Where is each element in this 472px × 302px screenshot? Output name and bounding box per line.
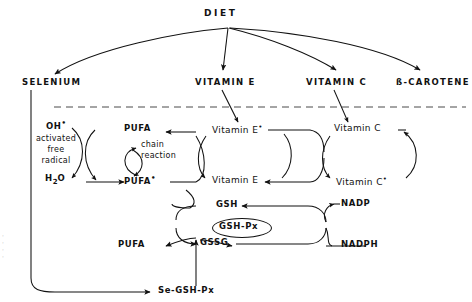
node-pufa-product: PUFA <box>118 240 145 249</box>
node-vitamin-e-radical: Vitamin E• <box>212 124 262 135</box>
node-vitamin-e-reduced: Vitamin E <box>212 176 258 185</box>
curve-vitamin-e-red-to-ox <box>282 134 291 178</box>
curve-pufa-radical-down-to-gsh-loop <box>186 190 194 208</box>
diagram-canvas: PUFA• horizontal --> toward Vitamin C cy… <box>0 0 472 302</box>
node-pufa: PUFA <box>124 124 151 133</box>
curve-c-cycle-entry-top <box>310 130 324 152</box>
diagram-title: DIET <box>204 9 238 18</box>
curve-c-cycle-exit-bottom <box>310 158 324 182</box>
node-nadph: NADPH <box>341 240 378 249</box>
node-b-carotene: ß-CAROTENE <box>396 78 470 87</box>
line-vitamin-e-descender <box>222 90 238 122</box>
scan-artifact: ···· <box>2 232 6 260</box>
arrow-diet-to-selenium <box>55 28 228 74</box>
arrow-diet-to-vitamin-c <box>229 28 336 70</box>
radical-dot-icon: • <box>383 175 387 183</box>
node-vitamin-c: VITAMIN C <box>306 78 367 87</box>
arrow-diet-to-vitamin-e <box>223 28 228 70</box>
node-vitamin-e: VITAMIN E <box>195 78 256 87</box>
node-water: H2O <box>45 174 65 186</box>
curve-gsh-right-lobe-top <box>308 206 326 222</box>
curve-chain-reaction-up <box>125 148 137 176</box>
node-gsh: GSH <box>216 200 238 209</box>
hydroxyl-radical-text: OH <box>46 121 62 131</box>
curve-gssg-right-lobe-bottom <box>308 228 326 244</box>
line-selenium-to-se-gsh-px <box>31 278 150 292</box>
radical-dot-icon: • <box>62 119 66 127</box>
annotation-chain-reaction: chain reaction <box>141 140 187 162</box>
node-nadp: NADP <box>341 199 370 208</box>
curve-vitamin-c-red-to-ox <box>323 136 331 178</box>
node-vitamin-c-radical: Vitamin C• <box>336 176 387 187</box>
node-gssg: GSSG <box>200 238 228 247</box>
node-gsh-px: GSH-Px <box>219 222 258 231</box>
line-vitamin-c-descender <box>334 90 348 122</box>
radical-dot-icon: • <box>151 174 155 182</box>
curve-nadph-cross-down <box>326 228 332 246</box>
node-pufa-radical: PUFA• <box>124 175 155 186</box>
node-selenium: SELENIUM <box>22 78 81 87</box>
annotation-activated-free-radical: activated free radical <box>28 134 84 166</box>
node-se-gsh-px: Se-GSH-Px <box>158 286 214 295</box>
radical-dot-icon: • <box>258 123 262 131</box>
curve-vitamin-c-ox-to-red <box>404 132 416 178</box>
curve-pufa-to-pufa-radical <box>85 130 96 180</box>
node-hydroxyl-radical: OH• <box>46 120 66 131</box>
node-vitamin-c-reduced: Vitamin C <box>334 124 381 133</box>
